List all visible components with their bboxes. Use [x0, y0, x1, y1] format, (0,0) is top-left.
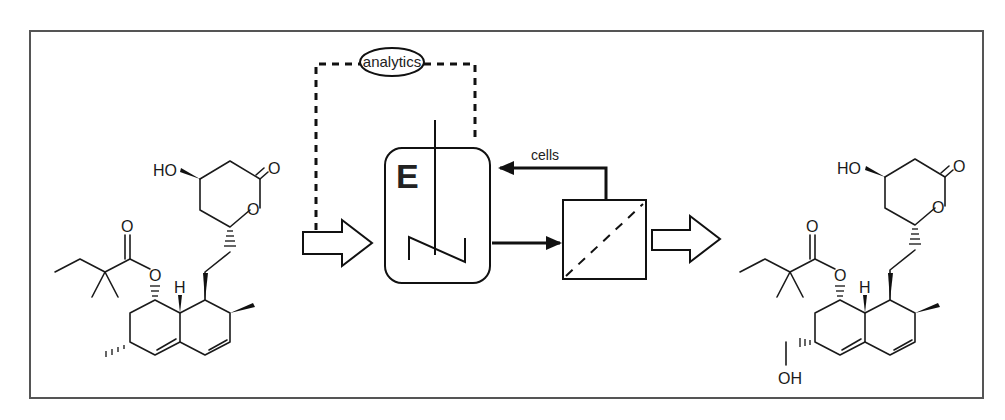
- substrate-structure: O O HO H: [55, 160, 280, 357]
- product-structure: O O HO H OH O: [740, 158, 965, 387]
- cells-label: cells: [531, 147, 559, 163]
- process-diagram: analytics E cells O O HO: [0, 0, 1005, 420]
- atom-o: O: [268, 160, 280, 177]
- atom-o: O: [806, 218, 818, 235]
- atom-o: O: [834, 267, 846, 284]
- reactor-label: E: [396, 157, 419, 195]
- atom-o: O: [932, 199, 944, 216]
- analytics-label: analytics: [363, 53, 421, 70]
- atom-o: O: [121, 218, 133, 235]
- atom-oh: OH: [778, 370, 802, 387]
- atom-o: O: [149, 267, 161, 284]
- cells-recycle: cells: [500, 147, 606, 200]
- atom-ho: HO: [153, 162, 177, 179]
- atom-o: O: [953, 158, 965, 175]
- reactor: E: [385, 120, 490, 283]
- atom-h: H: [174, 279, 186, 296]
- output-arrow: [652, 216, 720, 262]
- filter-module: [563, 200, 646, 279]
- atom-h: H: [859, 279, 871, 296]
- input-arrow: [303, 220, 372, 266]
- atom-o: O: [247, 201, 259, 218]
- figure-frame: [30, 31, 983, 398]
- atom-ho: HO: [837, 160, 861, 177]
